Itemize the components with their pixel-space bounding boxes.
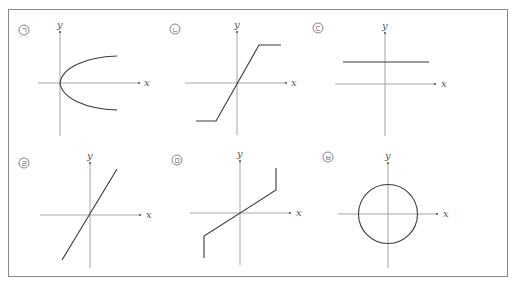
x-axis-label: x — [146, 209, 152, 220]
panel-1: ㄱ x y — [19, 19, 150, 136]
svg-text:ㄱ: ㄱ — [21, 27, 27, 35]
y-axis-label: y — [56, 19, 63, 30]
x-axis-label: x — [291, 77, 297, 88]
svg-text:ㅂ: ㅂ — [325, 154, 331, 162]
svg-text:ㄹ: ㄹ — [21, 160, 27, 168]
panel-5: ㅁ x y — [172, 148, 302, 265]
y-axis-label: y — [236, 148, 243, 159]
linear-line — [62, 169, 117, 260]
x-axis-label: x — [144, 77, 150, 88]
panel-4: ㄹ x y — [19, 150, 152, 268]
x-axis-label: x — [296, 207, 302, 218]
x-axis-label: x — [441, 78, 447, 89]
panel-marker: ㄷ — [313, 23, 323, 33]
panel-marker: ㄹ — [19, 158, 29, 168]
y-axis-label: y — [233, 19, 240, 30]
panel-marker: ㅂ — [323, 152, 333, 162]
svg-text:ㄴ: ㄴ — [172, 26, 178, 34]
y-axis-label: y — [384, 150, 391, 161]
panel-marker: ㄴ — [170, 24, 180, 34]
panel-marker: ㅁ — [172, 155, 182, 165]
graph-grid: ㄱ x y ㄴ x y ㄷ x y ㄹ — [0, 0, 516, 286]
y-axis-label: y — [86, 150, 93, 161]
x-axis-label: x — [443, 208, 449, 219]
panel-marker: ㄱ — [19, 25, 29, 35]
svg-text:ㅁ: ㅁ — [174, 157, 180, 165]
panel-6: ㅂ x y — [323, 150, 449, 268]
panel-3: ㄷ x y — [313, 20, 447, 136]
svg-text:ㄷ: ㄷ — [315, 25, 321, 33]
y-axis-label: y — [381, 20, 388, 31]
panel-2: ㄴ x y — [170, 19, 297, 135]
